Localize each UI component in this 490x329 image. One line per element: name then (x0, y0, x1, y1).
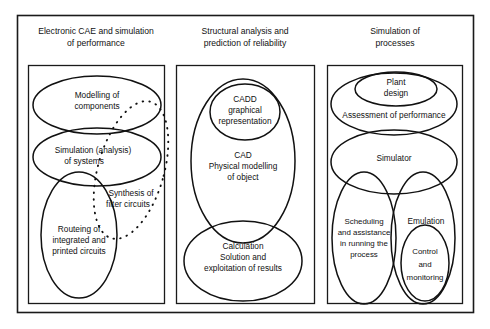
label-scheduling-line4: process (350, 250, 378, 259)
label-assessment: Assessment of performance (342, 110, 446, 120)
label-simulator: Simulator (376, 153, 411, 163)
label-cadd-line2: graphical (228, 105, 262, 115)
label-scheduling-line2: and assistance (338, 228, 391, 237)
venn-diagram-canvas: Electronic CAE and simulation of perform… (0, 0, 490, 329)
label-control-line2: and (418, 260, 431, 269)
label-plant-line2: design (384, 88, 409, 98)
label-simulation-line2: of systems (64, 156, 104, 166)
label-cad-line3: of object (227, 172, 259, 182)
label-routeing-line2: integrated and (52, 235, 105, 245)
label-cad-line2: Physical modelling (209, 161, 278, 171)
label-scheduling-line3: in running the (340, 239, 388, 248)
label-simulation-line1: Simulation (analysis) (55, 145, 132, 155)
ellipse-scheduling-and-assistance (332, 172, 396, 304)
panel-title-electronic-cae-line2: of performance (67, 38, 125, 48)
diagram-root: Electronic CAE and simulation of perform… (0, 0, 490, 329)
label-calculation-line1: Calculation (222, 241, 263, 251)
label-cadd-line1: CADD (233, 94, 257, 104)
label-plant-line1: Plant (387, 77, 407, 87)
label-calculation-line2: Solution and (220, 252, 267, 262)
label-synthesis-line2: filter circuits (106, 199, 150, 209)
panel-title-simulation-of-processes-line1: Simulation of (370, 26, 420, 36)
panel-title-structural-analysis-line2: prediction of reliability (204, 38, 287, 48)
panel-title-electronic-cae-line1: Electronic CAE and simulation (38, 26, 154, 36)
panel-title-structural-analysis-line1: Structural analysis and (202, 26, 289, 36)
label-routeing-line3: printed circuits (52, 246, 106, 256)
label-modelling-line2: components (74, 101, 119, 111)
label-cadd-line3: representation (218, 116, 271, 126)
label-modelling-line1: Modelling of (75, 90, 120, 100)
label-routeing-line1: Routeing of (58, 224, 101, 234)
label-calculation-line3: exploitation of results (204, 263, 282, 273)
panel-title-simulation-of-processes-line2: processes (375, 38, 414, 48)
label-control-line3: monitoring (407, 273, 444, 282)
label-cad-line1: CAD (234, 150, 252, 160)
label-scheduling-line1: Scheduling (344, 217, 383, 226)
label-control-line1: Control (412, 247, 438, 256)
label-synthesis-line1: Synthesis of (108, 188, 154, 198)
